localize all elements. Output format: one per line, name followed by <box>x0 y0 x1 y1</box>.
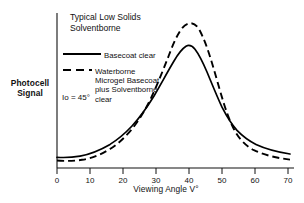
x-tick-label-70: 70 <box>279 176 297 185</box>
io-annotation: Io = 45° <box>62 93 90 102</box>
chart-title: Typical Low Solids Solventborne <box>70 12 141 35</box>
data-curve-waterborne-microgel <box>57 23 290 161</box>
y-axis-title: Photocell Signal <box>6 78 54 98</box>
x-tick-label-20: 20 <box>114 176 132 185</box>
x-tick-label-40: 40 <box>180 176 198 185</box>
data-curve-basecoat-clear <box>57 45 290 157</box>
x-tick-label-50: 50 <box>213 176 231 185</box>
x-axis-ticks <box>57 168 288 174</box>
x-tick-label-0: 0 <box>48 176 66 185</box>
figure-container: Photocell Signal Viewing Angle V° 0 10 2… <box>0 0 304 203</box>
legend-label-waterborne: Waterborne Microgel Basecoat plus Solven… <box>95 67 159 104</box>
x-tick-label-30: 30 <box>147 176 165 185</box>
x-axis-title: Viewing Angle V° <box>96 185 236 195</box>
x-tick-label-60: 60 <box>246 176 264 185</box>
x-tick-label-10: 10 <box>81 176 99 185</box>
legend-label-basecoat-clear: Basecoat clear <box>104 51 156 60</box>
